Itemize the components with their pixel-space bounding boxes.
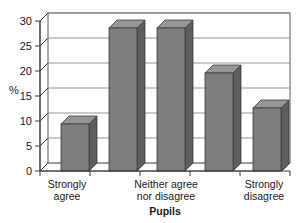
y-tick-label-15: 15 [20,90,32,102]
y-tick-label-0: 0 [26,165,32,177]
category-label-3-line2: nor disagree [137,190,196,202]
y-tick-label-30: 30 [20,15,32,27]
x-axis-title: Pupils [149,205,181,217]
category-label-5-line2: disagree [244,190,284,202]
bar-1 [61,116,97,171]
y-tick-labels: 0 5 10 15 20 25 30 [20,15,32,177]
y-tick-label-10: 10 [20,115,32,127]
bar-4 [205,65,241,171]
y-axis [35,13,48,171]
chart-canvas: 0 5 10 15 20 25 30 % [0,0,306,223]
x-tick-labels: Strongly agree Neither agree nor disagre… [48,178,285,202]
bar-5 [253,100,289,171]
y-tick-label-20: 20 [20,65,32,77]
bars-group [61,20,289,171]
y-axis-title: % [9,84,19,96]
category-label-5-line1: Strongly [245,178,284,190]
bar-chart: 0 5 10 15 20 25 30 % [0,0,306,223]
bar-3 [157,20,193,171]
x-axis [40,171,290,176]
category-label-1-line1: Strongly [48,178,87,190]
bar-2 [109,20,145,171]
category-label-1-line2: agree [54,190,81,202]
y-tick-label-25: 25 [20,40,32,52]
y-tick-label-5: 5 [26,140,32,152]
category-label-3-line1: Neither agree [134,178,198,190]
